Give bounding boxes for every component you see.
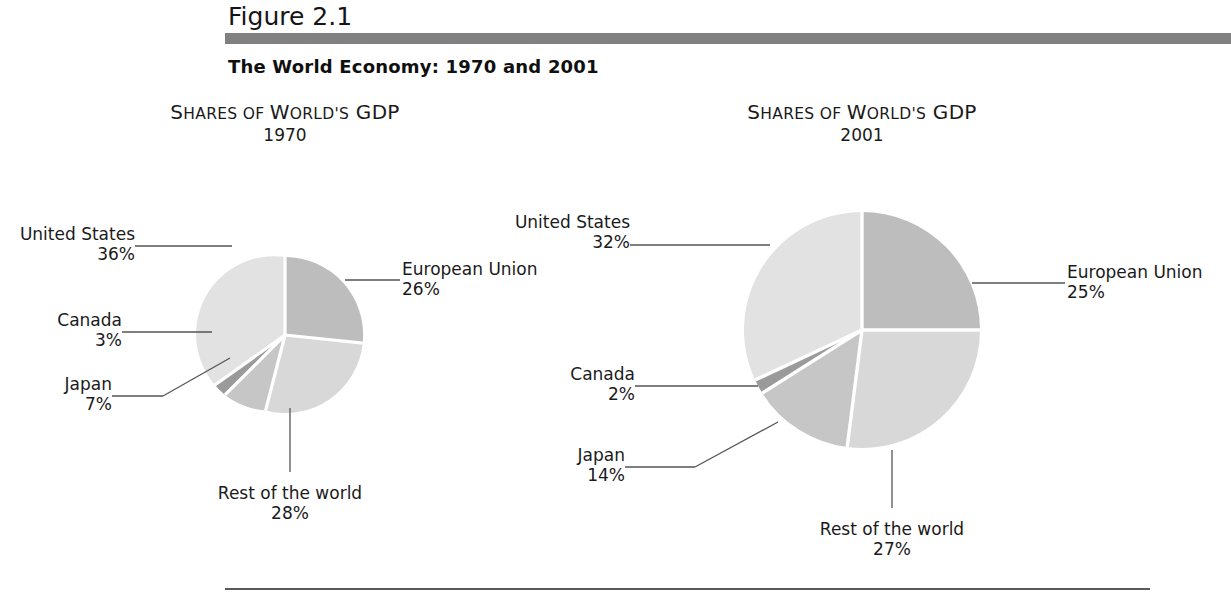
- pie-1-label-japan-pct: 7%: [0, 394, 112, 414]
- figure-label: Figure 2.1: [228, 2, 352, 31]
- pie-1-label-japan: Japan 7%: [0, 374, 112, 414]
- pie-1-label-united-states: United States 36%: [0, 224, 135, 264]
- pie-2-slice-rest-of-world: [847, 330, 980, 448]
- panel-2-heading: SHARES OF WORLD'S GDP 2001: [712, 100, 1012, 145]
- pie-1-label-rest-of-world: Rest of the world 28%: [170, 483, 410, 523]
- pie-2-slice-european-union: [862, 212, 980, 330]
- pie-2-label-united-states-name: United States: [515, 212, 630, 232]
- pie-2-label-rest-of-world: Rest of the world 27%: [772, 519, 1012, 559]
- panel-1-heading-s: S: [170, 100, 183, 124]
- pie-2-label-united-states-pct: 32%: [490, 232, 630, 252]
- pie-2-label-rest-name: Rest of the world: [820, 519, 964, 539]
- pie-2-label-canada: Canada 2%: [510, 364, 635, 404]
- pie-1-label-european-union-name: European Union: [402, 259, 538, 279]
- panel-2-heading-hares: HARES: [760, 105, 814, 123]
- panel-2-year: 2001: [712, 125, 1012, 145]
- panel-1-heading-hares: HARES: [183, 105, 237, 123]
- pie-2-label-japan-name: Japan: [578, 445, 625, 465]
- panel-2-heading-w: W: [847, 100, 867, 124]
- panel-1-heading: SHARES OF WORLD'S GDP 1970: [135, 100, 435, 145]
- panel-1-year: 1970: [135, 125, 435, 145]
- panel-1-heading-w: W: [270, 100, 290, 124]
- pie-2-label-european-union-pct: 25%: [1067, 282, 1231, 302]
- pie-1-label-canada: Canada 3%: [0, 310, 122, 350]
- panel-1-heading-text: SHARES OF WORLD'S GDP: [135, 100, 435, 124]
- pie-1-slice-european-union: [285, 257, 363, 343]
- panel-2-heading-text: SHARES OF WORLD'S GDP: [712, 100, 1012, 124]
- panel-2-heading-gdp: GDP: [926, 100, 977, 124]
- pie-2-label-european-union: European Union 25%: [1067, 262, 1231, 302]
- header-rule-bar: [225, 33, 1231, 44]
- panel-2-heading-of: OF: [814, 105, 846, 123]
- figure-title: The World Economy: 1970 and 2001: [228, 56, 599, 77]
- panel-1-heading-orlds: ORLD'S: [290, 105, 349, 123]
- footer-rule: [225, 588, 1150, 590]
- pie-2-label-united-states: United States 32%: [490, 212, 630, 252]
- pie-2-label-japan-pct: 14%: [500, 465, 625, 485]
- pie-1-label-rest-name: Rest of the world: [218, 483, 362, 503]
- pie-2-label-japan: Japan 14%: [500, 445, 625, 485]
- pie-1-label-united-states-pct: 36%: [0, 244, 135, 264]
- panel-1-heading-of: OF: [237, 105, 269, 123]
- pie-2-label-european-union-name: European Union: [1067, 262, 1203, 282]
- pie-1-label-canada-pct: 3%: [0, 330, 122, 350]
- panel-2-heading-s: S: [747, 100, 760, 124]
- pie-1-label-japan-name: Japan: [65, 374, 112, 394]
- pie-2-label-rest-pct: 27%: [772, 539, 1012, 559]
- pie-1-label-rest-pct: 28%: [170, 503, 410, 523]
- pie-1-label-canada-name: Canada: [57, 310, 122, 330]
- pie-2-label-canada-pct: 2%: [510, 384, 635, 404]
- panel-2-heading-orlds: ORLD'S: [867, 105, 926, 123]
- pie-2-label-canada-name: Canada: [570, 364, 635, 384]
- panel-1-heading-gdp: GDP: [349, 100, 400, 124]
- pie-1-slices: [196, 256, 363, 413]
- pie-1-label-united-states-name: United States: [20, 224, 135, 244]
- leader-2-japan-elbow: [695, 422, 778, 467]
